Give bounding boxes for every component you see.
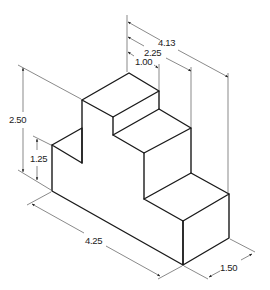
dim-label-4-25: 4.25	[85, 235, 102, 246]
object-outline	[52, 73, 229, 265]
top-step-face	[82, 73, 159, 117]
left-face-outline	[52, 145, 183, 265]
isometric-drawing: 4.13 2.25 1.00 2.50 1.25 4.25 1.50	[0, 0, 270, 290]
dim-label-2-50: 2.50	[9, 114, 26, 125]
left-low-top	[52, 128, 82, 163]
right-end-face	[183, 194, 229, 265]
second-step-face	[113, 109, 191, 153]
dim-label-1-25: 1.25	[30, 153, 47, 164]
dim-label-1-00: 1.00	[135, 56, 152, 67]
dim-label-1-50: 1.50	[220, 262, 237, 273]
third-step-face	[144, 173, 229, 221]
